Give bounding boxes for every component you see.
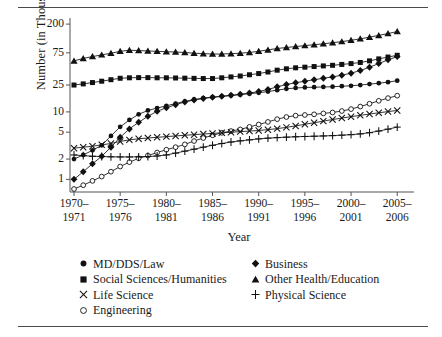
series-md-dds-law <box>72 78 400 161</box>
legend-item-other-health-education: Other Health/Education <box>250 272 418 288</box>
legend-label: Business <box>265 258 308 270</box>
legend-item-md-dds-law: MD/DDS/Law <box>78 256 250 272</box>
x-axis-title: Year <box>70 230 408 245</box>
filled-diamond-icon <box>250 258 261 269</box>
x-axis-tick-labels: 1970–19711975–19761980–19811985–19861990… <box>70 196 408 230</box>
filled-square-icon <box>78 274 89 285</box>
legend-label: Other Health/Education <box>265 273 379 285</box>
legend-item-social-sciences-humanities: Social Sciences/Humanities <box>78 272 250 288</box>
series-life-science <box>71 107 400 151</box>
legend-item-engineering: Engineering <box>78 303 250 319</box>
open-circle-icon <box>78 305 89 316</box>
legend-empty <box>250 303 418 319</box>
figure-container: 125102575200 Number (in Thousands) 1970–… <box>0 0 442 337</box>
filled-circle-icon <box>78 258 89 269</box>
chart-legend: MD/DDS/LawBusinessSocial Sciences/Humani… <box>78 256 418 318</box>
y-tick-label: 1 <box>34 174 64 186</box>
plus-icon <box>250 289 261 300</box>
legend-item-physical-science: Physical Science <box>250 287 418 303</box>
series-social-sciences-humanities <box>72 53 400 88</box>
y-tick-label: 2 <box>34 153 64 165</box>
legend-item-life-science: Life Science <box>78 287 250 303</box>
x-tick-label: 2005–2006 <box>366 196 428 224</box>
legend-label: Social Sciences/Humanities <box>93 273 227 285</box>
y-axis-title: Number (in Thousands) <box>34 0 49 115</box>
legend-label: Life Science <box>93 289 153 301</box>
legend-label: Physical Science <box>265 289 346 301</box>
series-business <box>71 53 401 183</box>
cross-x-icon <box>78 289 89 300</box>
legend-label: Engineering <box>93 304 152 316</box>
legend-label: MD/DDS/Law <box>93 258 164 270</box>
filled-triangle-icon <box>250 274 261 285</box>
series-other-health-education <box>70 28 400 64</box>
legend-item-business: Business <box>250 256 418 272</box>
y-tick-label: 5 <box>34 126 64 138</box>
